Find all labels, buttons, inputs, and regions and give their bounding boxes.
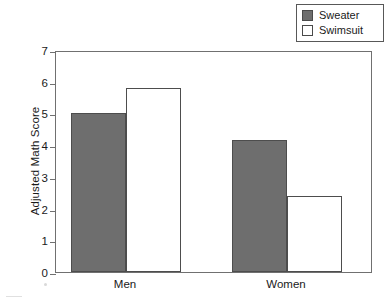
scan-artifact-dot: [44, 283, 47, 286]
legend-swatch-swimsuit-icon: [302, 25, 313, 36]
y-axis-title: Adjusted Math Score: [29, 61, 41, 261]
y-tick-label: 0: [42, 268, 48, 280]
x-axis-label-women: Women: [266, 278, 305, 290]
y-tick-mark: [50, 179, 56, 180]
legend-item-sweater: Sweater: [302, 8, 379, 23]
x-axis-label-men: Men: [114, 278, 136, 290]
y-tick-mark: [50, 211, 56, 212]
y-tick-mark: [50, 84, 56, 85]
legend-label-sweater: Sweater: [319, 10, 359, 21]
y-tick-mark: [50, 115, 56, 116]
legend-item-swimsuit: Swimsuit: [302, 23, 379, 38]
plot-area: 01234567: [55, 51, 372, 273]
y-tick-label: 7: [42, 46, 48, 58]
bar-chart-figure: Sweater Swimsuit Adjusted Math Score 012…: [0, 0, 390, 308]
plot-inner: 01234567: [56, 52, 371, 272]
y-tick-label: 6: [42, 78, 48, 90]
y-tick-label: 3: [42, 173, 48, 185]
legend-swatch-sweater-icon: [302, 10, 313, 21]
y-tick-mark: [50, 147, 56, 148]
y-tick-mark: [50, 274, 56, 275]
y-tick-mark: [50, 242, 56, 243]
scan-artifact: [6, 296, 22, 304]
legend-label-swimsuit: Swimsuit: [319, 25, 363, 36]
bar-men-sweater: [71, 113, 126, 272]
chart-legend: Sweater Swimsuit: [296, 4, 384, 42]
y-tick-label: 1: [42, 237, 48, 249]
bar-women-sweater: [232, 140, 287, 272]
bar-women-swimsuit: [287, 196, 342, 272]
y-tick-label: 4: [42, 141, 48, 153]
y-tick-mark: [50, 52, 56, 53]
y-tick-label: 5: [42, 110, 48, 122]
y-tick-label: 2: [42, 205, 48, 217]
bar-men-swimsuit: [126, 88, 181, 272]
